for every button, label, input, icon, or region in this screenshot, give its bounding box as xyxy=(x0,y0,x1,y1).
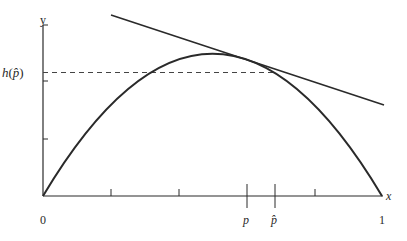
x-tick-label-origin: 0 xyxy=(40,213,46,227)
x-axis-label: x xyxy=(385,189,392,203)
concave-curve xyxy=(43,54,382,196)
y-axis-label: y xyxy=(40,13,46,27)
x-tick-label-one: 1 xyxy=(379,213,385,227)
tangent-line xyxy=(111,15,384,105)
diagram: y x h(p̂) 0 p p̂ 1 xyxy=(0,0,407,241)
x-tick-label-p-hat: p̂ xyxy=(270,213,277,227)
x-tick-label-p: p xyxy=(242,213,249,227)
y-tick-label-h-p-hat: h(p̂) xyxy=(2,65,24,80)
